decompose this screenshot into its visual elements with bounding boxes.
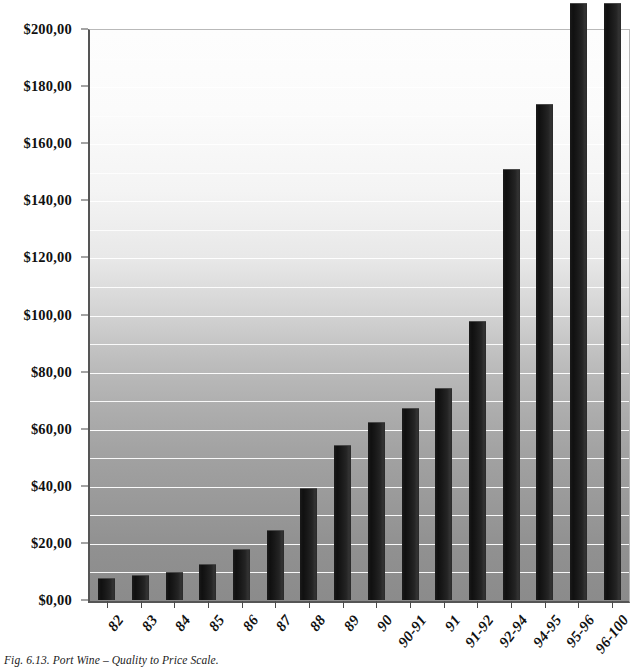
- x-axis-label-88: 88: [306, 612, 329, 635]
- x-axis-tick: [578, 601, 579, 608]
- x-axis-tick: [107, 601, 108, 608]
- figure-port-wine-quality-to-price-scale: $0,00$20,00$40,00$60,00$80,00$100,00$120…: [0, 0, 639, 672]
- x-axis-tick: [174, 601, 175, 608]
- x-axis-tick: [444, 601, 445, 608]
- x-axis-label-85: 85: [205, 612, 228, 635]
- x-axis-label-82: 82: [104, 612, 127, 635]
- x-axis-tick: [208, 601, 209, 608]
- x-axis-label-89: 89: [340, 612, 363, 635]
- x-axis-label-94-95: 94-95: [530, 612, 566, 651]
- figure-caption: Fig. 6.13. Port Wine – Quality to Price …: [4, 654, 219, 666]
- x-axis-tick: [275, 601, 276, 608]
- x-axis-label-84: 84: [172, 612, 195, 635]
- x-axis-label-92-94: 92-94: [496, 612, 532, 651]
- x-axis-label-96-100: 96-100: [592, 612, 632, 657]
- x-axis-label-87: 87: [273, 612, 296, 635]
- x-axis-tick: [376, 601, 377, 608]
- x-axis-label-90: 90: [374, 612, 397, 635]
- x-axis-label-91: 91: [441, 612, 464, 635]
- x-axis-tick: [477, 601, 478, 608]
- x-axis-label-90-91: 90-91: [395, 612, 431, 651]
- x-axis-tick: [410, 601, 411, 608]
- x-axis-tick: [343, 601, 344, 608]
- x-axis-label-86: 86: [239, 612, 262, 635]
- x-axis-tick: [309, 601, 310, 608]
- x-axis-label-91-92: 91-92: [462, 612, 498, 651]
- x-axis-tick: [242, 601, 243, 608]
- x-axis-tick: [511, 601, 512, 608]
- x-axis-tick: [612, 601, 613, 608]
- x-axis-tick: [545, 601, 546, 608]
- x-axis: 82838485868788899090-919191-9292-9494-95…: [0, 0, 639, 672]
- x-axis-tick: [141, 601, 142, 608]
- x-axis-label-83: 83: [138, 612, 161, 635]
